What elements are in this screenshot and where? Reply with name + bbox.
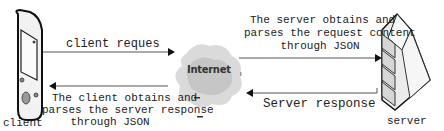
arrow-client-response [49, 82, 168, 90]
internet-node-label: Internet [187, 64, 231, 75]
server-parse-line-3: through JSON [250, 40, 390, 53]
server-response-label: Server response [263, 98, 376, 111]
server-parse-line-2: parses the request content [244, 27, 384, 40]
arrow-server-request [239, 54, 382, 62]
client-request-label: client reques [66, 38, 160, 51]
client-node-label: client [3, 117, 43, 130]
server-node-label: server [387, 115, 427, 128]
client-parse-line-3: through JSON [52, 116, 168, 129]
arrow-server-response [246, 88, 377, 97]
mobile-device-icon [16, 10, 42, 120]
server-parse-line-1: The server obtains and [250, 14, 390, 27]
